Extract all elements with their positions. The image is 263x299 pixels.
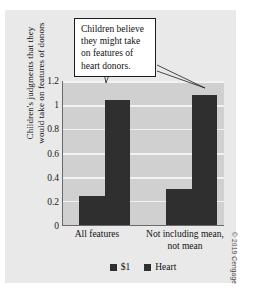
y-tick-label-1.2: 1.2 (47, 76, 59, 86)
bar-all-features-heart (105, 100, 131, 225)
x-axis-label-not-including-mean: Not including mean, not mean (138, 229, 232, 252)
legend-swatch-heart (144, 264, 151, 271)
x-axis-label-1-line-2: not mean (138, 241, 232, 253)
bar-not-including-mean-heart (192, 95, 218, 225)
y-tick-label-0.4: 0.4 (47, 173, 59, 183)
annotation-callout: Children believe they might take on feat… (74, 18, 156, 77)
plot-area (62, 81, 224, 226)
legend-item-dollar1: $1 (110, 262, 131, 272)
y-axis-ticks: 1.2 1 0.8 0.6 0.4 0.2 0 (36, 81, 59, 226)
bar-not-including-mean-dollar1 (166, 189, 192, 225)
y-tick-label-0.6: 0.6 (47, 149, 59, 159)
plot-inner (63, 81, 224, 225)
y-axis-title-line-1: Children's judgments that they (25, 3, 36, 163)
y-tick-label-0.8: 0.8 (47, 124, 59, 134)
copyright-credit: © 2019 Cengage (231, 232, 238, 298)
legend-swatch-dollar1 (110, 264, 117, 271)
annotation-line-2: they might take (81, 35, 150, 47)
x-axis-labels: All features Not including mean, not mea… (62, 229, 224, 263)
figure-container: Children's judgments that they would tak… (0, 0, 263, 299)
annotation-line-3: on features of (81, 47, 150, 59)
bar-all-features-dollar1 (79, 196, 105, 225)
legend-label-dollar1: $1 (121, 262, 131, 272)
x-axis-label-all-features: All features (54, 229, 140, 241)
y-tick-label-0.2: 0.2 (47, 197, 59, 207)
annotation-line-1: Children believe (81, 23, 150, 35)
annotation-line-4: heart donors. (81, 60, 150, 72)
y-tick-label-1: 1 (54, 100, 59, 110)
legend-item-heart: Heart (144, 262, 176, 272)
x-axis-label-1-line-1: Not including mean, (138, 229, 232, 241)
x-axis-label-0-line-1: All features (54, 229, 140, 241)
gridline-1.2 (63, 81, 224, 83)
legend-label-heart: Heart (155, 262, 176, 272)
chart-legend: $1 Heart (62, 262, 224, 272)
